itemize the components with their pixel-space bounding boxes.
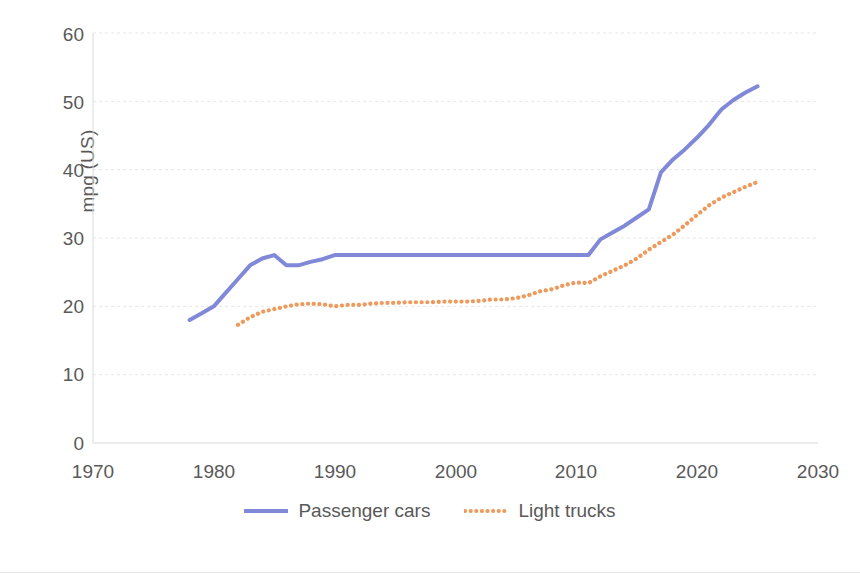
legend-item-passenger-cars: Passenger cars	[244, 500, 430, 522]
plot-area	[0, 0, 860, 573]
legend-swatch-dotted	[464, 504, 508, 518]
series-line-passenger-cars	[190, 86, 758, 320]
legend-item-light-trucks: Light trucks	[464, 500, 615, 522]
line-chart: mpg (US) 60 50 40 30 20 10 0 1970 1980 1…	[0, 0, 860, 573]
legend-label: Light trucks	[518, 500, 615, 522]
legend-swatch-solid	[244, 504, 288, 518]
legend-label: Passenger cars	[298, 500, 430, 522]
chart-legend: Passenger cars Light trucks	[0, 500, 860, 522]
